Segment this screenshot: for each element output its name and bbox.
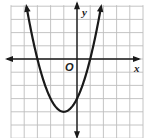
y-axis-label: y [80, 6, 87, 18]
origin-label: O [65, 61, 74, 73]
x-axis-label: x [133, 62, 140, 74]
parabola-graph: y x O [0, 0, 149, 138]
